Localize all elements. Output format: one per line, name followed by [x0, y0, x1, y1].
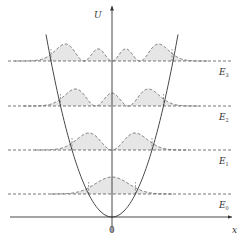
u-axis-label: U [94, 10, 102, 20]
x-axis-label: x [232, 225, 237, 235]
energy-label-e0: E0 [218, 200, 229, 211]
energy-label-e3: E3 [218, 67, 229, 78]
energy-labels: E0E1E2E3 [218, 67, 229, 211]
energy-label-e1: E1 [218, 156, 229, 167]
origin-label: 0 [109, 225, 115, 235]
energy-label-e2: E2 [218, 112, 229, 123]
oscillator-diagram: U x 0 E0E1E2E3 [0, 0, 240, 240]
energy-levels [8, 61, 232, 194]
